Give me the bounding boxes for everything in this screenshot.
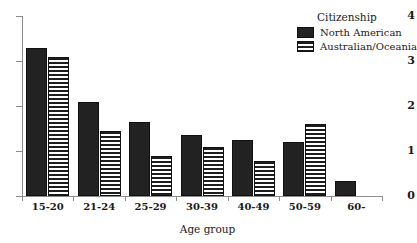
x-tick-label: 25-29 [125,202,176,212]
y-tick-label: 3 [401,55,415,66]
bar-25-29-australian-oceania [151,156,172,197]
legend: Citizenship North American Australian/Oc… [297,12,415,55]
bar-50-59-australian-oceania [305,124,326,196]
x-axis-line [22,196,382,197]
bar-40-49-north-american [232,140,253,196]
bar-25-29-north-american [129,122,150,196]
y-tick-label: 0 [401,190,415,201]
bar-21-24-north-american [78,102,99,197]
legend-label-north-american: North American [320,27,402,38]
y-tick-label: 2 [401,100,415,111]
legend-title: Citizenship [317,12,415,23]
x-tick [22,196,23,201]
x-tick [382,196,383,201]
bar-15-20-north-american [26,48,47,197]
legend-swatch-solid-icon [297,27,314,38]
y-tick-label: 1 [401,145,415,156]
x-tick-label: 40-49 [228,202,279,212]
x-tick-label: 30-39 [176,202,227,212]
bar-15-20-australian-oceania [48,57,69,197]
bar-40-49-australian-oceania [254,161,275,196]
legend-label-australian-oceania: Australian/Oceania [320,41,417,52]
x-tick-label: 50-59 [279,202,330,212]
bar-30-39-north-american [181,135,202,196]
x-tick [73,196,74,201]
x-tick [331,196,332,201]
x-axis-title: Age group [0,224,415,235]
x-tick [125,196,126,201]
legend-swatch-striped-icon [297,41,314,52]
x-tick [279,196,280,201]
x-tick-label: 21-24 [73,202,124,212]
bar-30-39-australian-oceania [203,147,224,197]
x-tick [228,196,229,201]
x-tick [176,196,177,201]
bar-21-24-australian-oceania [100,131,121,196]
x-tick-label: 15-20 [22,202,73,212]
legend-entry-north-american: North American [297,27,415,38]
bar-60--north-american [335,181,356,196]
bar-50-59-north-american [283,142,304,196]
x-tick-label: 60- [331,202,382,212]
legend-entry-australian-oceania: Australian/Oceania [297,41,415,52]
